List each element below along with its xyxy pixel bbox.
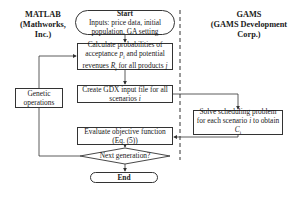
- genetic-line2: operations: [24, 98, 55, 107]
- calculate-probabilities-box: Calculate probabilities of acceptance pj…: [77, 43, 173, 70]
- matlab-subtitle: (Mathworks,: [12, 20, 74, 30]
- gams-title: GAMS: [208, 10, 290, 20]
- gdx-line2: scenarios i: [109, 94, 140, 103]
- start-node: Start Inputs: price data, initial popula…: [75, 10, 175, 35]
- calc-line3: revenues Rj for all products j: [83, 61, 168, 73]
- gams-subtitle: (GAMS Development: [208, 20, 290, 30]
- end-label: End: [117, 173, 130, 182]
- calc-line2: acceptance pj and potential: [85, 49, 165, 61]
- matlab-lane-label: MATLAB (Mathworks, Inc.): [12, 10, 74, 40]
- gams-lane-label: GAMS (GAMS Development Corp.): [208, 10, 290, 40]
- gams-subtitle-end: Corp.): [208, 30, 290, 40]
- evaluate-objective-box: Evaluate objective function (Eq. (5)): [77, 127, 173, 145]
- start-line1: Inputs: price data, initial: [89, 18, 161, 27]
- solve-scheduling-box: Solve scheduling problem for each scenar…: [193, 110, 283, 135]
- matlab-subtitle-end: Inc.): [12, 30, 74, 40]
- solve-line2: for each scenario i to obtain: [197, 116, 279, 125]
- start-line2: population, GA setting: [91, 27, 158, 36]
- end-node: End: [90, 172, 158, 183]
- genetic-operations-box: Genetic operations: [15, 88, 63, 108]
- gdx-line1: Create GDX input file for all: [82, 85, 168, 94]
- matlab-title: MATLAB: [12, 10, 74, 20]
- decision-label: Next generation?: [80, 151, 170, 160]
- evaluate-line1: Evaluate objective function: [84, 127, 165, 136]
- start-title: Start: [117, 9, 133, 18]
- solve-line3: Ci: [235, 125, 241, 137]
- calc-line1: Calculate probabilities of: [88, 40, 163, 49]
- genetic-line1: Genetic: [28, 89, 51, 98]
- solve-line1: Solve scheduling problem: [199, 107, 276, 116]
- evaluate-line2: (Eq. (5)): [112, 136, 137, 145]
- create-gdx-box: Create GDX input file for all scenarios …: [77, 85, 173, 103]
